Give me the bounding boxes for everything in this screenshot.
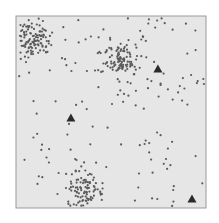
data-point xyxy=(75,195,77,197)
data-point xyxy=(135,47,137,49)
data-point xyxy=(71,173,73,175)
data-point xyxy=(30,32,32,34)
data-point xyxy=(32,136,34,138)
data-point xyxy=(138,172,140,174)
data-point xyxy=(117,61,119,63)
data-point xyxy=(117,78,119,80)
data-point xyxy=(36,23,38,25)
data-point xyxy=(111,103,113,105)
data-point xyxy=(39,24,41,26)
data-point xyxy=(145,56,147,58)
data-point xyxy=(117,46,119,48)
data-point xyxy=(61,57,63,59)
data-point xyxy=(150,159,152,161)
data-point xyxy=(120,143,122,145)
data-point xyxy=(107,65,109,67)
data-point xyxy=(139,144,141,146)
data-point xyxy=(147,23,149,25)
data-point xyxy=(36,183,38,185)
data-point xyxy=(172,201,174,203)
data-point xyxy=(70,190,72,192)
data-point xyxy=(183,87,185,89)
data-point xyxy=(43,34,45,36)
data-point xyxy=(167,148,169,150)
data-point xyxy=(86,191,88,193)
data-point xyxy=(105,166,107,168)
data-point xyxy=(102,28,104,30)
data-point xyxy=(27,28,29,30)
data-point xyxy=(158,96,160,98)
data-point xyxy=(45,51,47,53)
data-point xyxy=(33,28,35,30)
data-point xyxy=(36,133,38,135)
data-point xyxy=(163,73,165,75)
data-point xyxy=(163,163,165,165)
data-point xyxy=(88,191,90,193)
data-point xyxy=(69,205,71,207)
data-point xyxy=(43,49,45,51)
data-point xyxy=(93,191,95,193)
data-point xyxy=(172,189,174,191)
data-point xyxy=(107,127,109,129)
data-point xyxy=(75,159,77,161)
data-point xyxy=(92,126,94,128)
data-point xyxy=(38,40,40,42)
data-point xyxy=(28,47,30,49)
data-point xyxy=(186,104,188,106)
data-point xyxy=(69,188,71,190)
data-point xyxy=(139,30,141,32)
data-point xyxy=(41,144,43,146)
data-point xyxy=(129,56,131,58)
data-point xyxy=(23,31,25,33)
data-point xyxy=(126,68,128,70)
data-point xyxy=(19,24,21,26)
data-point xyxy=(65,173,67,175)
data-point xyxy=(77,19,79,21)
data-point xyxy=(40,42,42,44)
data-point xyxy=(148,18,150,20)
data-point xyxy=(81,101,83,103)
data-point xyxy=(68,123,70,125)
data-point xyxy=(70,183,72,185)
data-point xyxy=(84,191,86,193)
data-point xyxy=(100,52,102,54)
data-point xyxy=(98,36,100,38)
data-point xyxy=(70,181,72,183)
data-point xyxy=(111,54,113,56)
data-point xyxy=(33,40,35,42)
data-point xyxy=(30,43,32,45)
data-point xyxy=(134,66,136,68)
data-point xyxy=(124,46,126,48)
data-point xyxy=(112,69,114,71)
data-point xyxy=(20,58,22,60)
data-point xyxy=(97,52,99,54)
data-point xyxy=(64,39,66,41)
data-point xyxy=(130,82,132,84)
data-point xyxy=(40,149,42,151)
data-point xyxy=(49,35,51,37)
data-point xyxy=(195,155,197,157)
data-point xyxy=(32,100,34,102)
data-point xyxy=(55,100,57,102)
data-point xyxy=(127,81,129,83)
data-point xyxy=(135,104,137,106)
data-point xyxy=(185,23,187,25)
data-point xyxy=(85,195,87,197)
data-point xyxy=(140,38,142,40)
data-point xyxy=(23,36,25,38)
data-point xyxy=(22,25,24,27)
data-point xyxy=(90,199,92,201)
data-point xyxy=(121,61,123,63)
data-point xyxy=(134,44,136,46)
data-point xyxy=(160,134,162,136)
data-point xyxy=(45,156,47,158)
data-point xyxy=(80,165,82,167)
data-point xyxy=(80,189,82,191)
data-point xyxy=(41,44,43,46)
data-point xyxy=(134,200,136,202)
data-point xyxy=(95,162,97,164)
data-point xyxy=(92,179,94,181)
data-point xyxy=(135,90,137,92)
data-point xyxy=(45,46,47,48)
data-point xyxy=(41,31,43,33)
